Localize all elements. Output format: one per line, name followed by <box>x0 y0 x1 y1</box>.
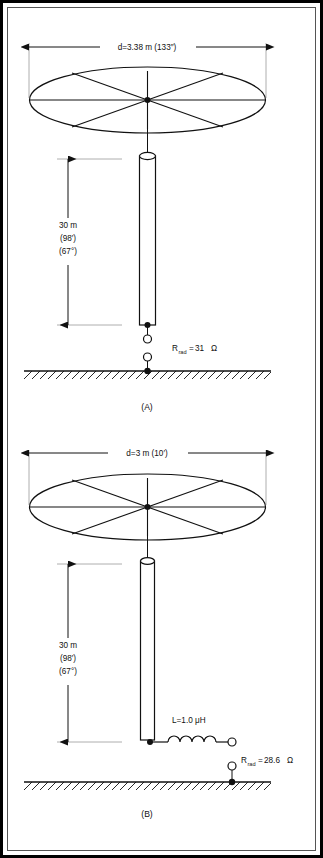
panel-b-rrad-subscript: rad <box>248 761 256 767</box>
panel-b-height-line1: 30 m <box>59 641 77 650</box>
panel-b-rrad-equals: = <box>258 756 263 765</box>
panel-a-rrad-subscript: rad <box>179 349 187 355</box>
panel-a-feed-terminal-lower <box>144 353 152 361</box>
panel-b: d=3 m (10′) L=1.0 μH R rad <box>24 449 293 819</box>
panel-a-height-line3: (67°) <box>59 247 77 256</box>
panel-b-height-line3: (67°) <box>59 667 77 676</box>
panel-a-rrad-equals: = <box>189 344 194 353</box>
panel-b-feed-terminal-upper <box>228 738 236 746</box>
panel-a-height-label: 30 m (98′) (67°) <box>59 221 77 256</box>
panel-b-height-line2: (98′) <box>60 654 76 663</box>
panel-b-mast-top-cap <box>141 558 155 565</box>
panel-a-rrad-symbol: R <box>172 344 178 353</box>
panel-b-mast-body <box>141 561 155 740</box>
panel-a-rrad-unit: Ω <box>211 344 217 353</box>
panel-b-rrad-symbol: R <box>241 756 247 765</box>
outer-border <box>2 2 322 857</box>
panel-a-caption: (A) <box>141 402 153 412</box>
panel-a-rrad-label: R rad = 31 Ω <box>172 344 217 355</box>
panel-a-width-label: d=3.38 m (133″) <box>118 43 177 52</box>
panel-a-mast-top-cap <box>140 152 156 159</box>
panel-b-rrad-unit: Ω <box>287 756 293 765</box>
panel-a-mast-body <box>140 156 156 325</box>
panel-b-rrad-label: R rad = 28.6 Ω <box>241 756 293 767</box>
panel-b-caption: (B) <box>141 809 153 819</box>
panel-a-feed-terminal-upper <box>144 335 152 343</box>
figure-canvas: d=3.38 m (133″) <box>0 0 323 858</box>
panel-a-height-line2: (98′) <box>60 234 76 243</box>
panel-b-inductor-label: L=1.0 μH <box>172 716 206 725</box>
panel-a-height-line1: 30 m <box>59 221 77 230</box>
panel-b-height-label: 30 m (98′) (67°) <box>59 641 77 676</box>
antenna-figure: d=3.38 m (133″) <box>0 0 323 858</box>
inner-border <box>8 8 316 851</box>
panel-b-inductor-coil <box>168 736 216 742</box>
panel-b-feed-terminal-lower <box>228 762 236 770</box>
panel-a: d=3.38 m (133″) <box>24 43 271 412</box>
panel-b-rrad-value: 28.6 <box>264 756 280 765</box>
panel-a-rrad-value: 31 <box>195 344 205 353</box>
panel-b-width-label: d=3 m (10′) <box>126 449 168 458</box>
